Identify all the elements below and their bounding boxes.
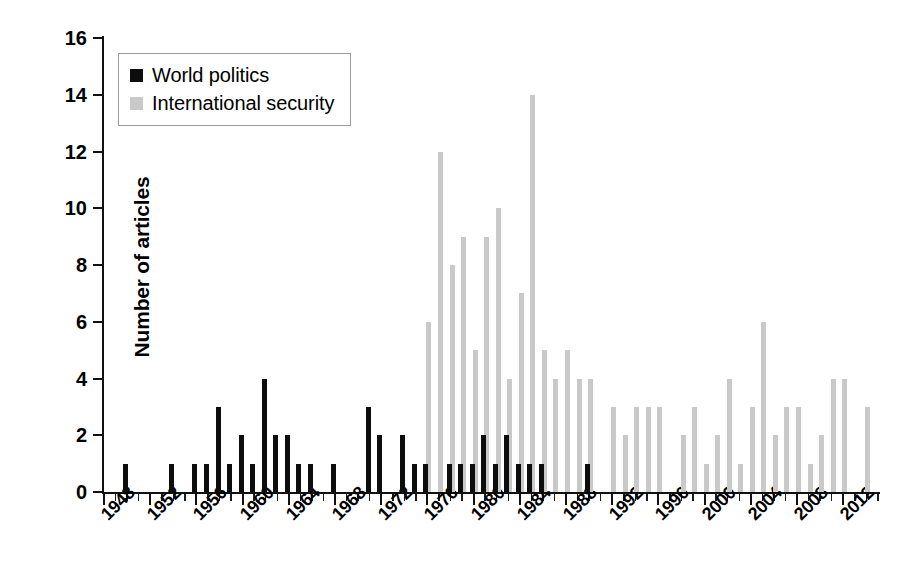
bar-international-security-1987	[553, 379, 558, 493]
bar-world-politics-1960	[239, 435, 244, 492]
bar-world-politics-1979	[458, 464, 463, 492]
bar-world-politics-1980	[470, 464, 475, 492]
bar-international-security-1989	[577, 379, 582, 493]
bar-world-politics-1966	[308, 464, 313, 492]
bar-international-security-2003	[738, 464, 743, 492]
bar-international-security-1992	[611, 407, 616, 492]
bar-world-politics-1985	[527, 464, 532, 492]
bar-international-security-1996	[657, 407, 662, 492]
bar-world-politics-1968	[331, 464, 336, 492]
bar-international-security-1984	[519, 293, 524, 492]
chart-legend: World politics International security	[118, 53, 351, 126]
bar-international-security-2007	[784, 407, 789, 492]
bar-world-politics-1984	[516, 464, 521, 492]
bar-international-security-1994	[634, 407, 639, 492]
bar-international-security-1979	[461, 237, 466, 492]
bar-world-politics-1964	[285, 435, 290, 492]
legend-label-world-politics: World politics	[152, 64, 269, 87]
bar-world-politics-1962	[262, 379, 267, 493]
bar-international-security-2014	[865, 407, 870, 492]
bar-world-politics-1982	[493, 464, 498, 492]
bar-international-security-1977	[438, 152, 443, 493]
bar-international-security-2012	[842, 379, 847, 493]
bar-international-security-1978	[450, 265, 455, 492]
bar-world-politics-1963	[273, 435, 278, 492]
bar-international-security-2001	[715, 435, 720, 492]
bar-international-security-1985	[530, 95, 535, 492]
bar-world-politics-1976	[423, 464, 428, 492]
bar-world-politics-1974	[400, 435, 405, 492]
bar-world-politics-1958	[216, 407, 221, 492]
bar-world-politics-1957	[204, 464, 209, 492]
bar-international-security-2006	[773, 435, 778, 492]
bar-world-politics-1956	[192, 464, 197, 492]
bar-international-security-2004	[750, 407, 755, 492]
legend-item-international-security: International security	[130, 89, 334, 117]
bar-international-security-2011	[831, 379, 836, 493]
legend-item-world-politics: World politics	[130, 61, 334, 89]
bar-world-politics-1975	[412, 464, 417, 492]
bar-world-politics-1990	[585, 464, 590, 492]
bar-international-security-1995	[646, 407, 651, 492]
bar-world-politics-1983	[504, 435, 509, 492]
bar-world-politics-1981	[481, 435, 486, 492]
bar-international-security-1998	[681, 435, 686, 492]
bar-international-security-2008	[796, 407, 801, 492]
bar-world-politics-1971	[366, 407, 371, 492]
bar-world-politics-1961	[250, 464, 255, 492]
bar-international-security-2000	[704, 464, 709, 492]
legend-swatch-world-politics	[130, 69, 143, 82]
bar-international-security-2009	[808, 464, 813, 492]
bar-world-politics-1965	[296, 464, 301, 492]
bar-international-security-2005	[761, 322, 766, 492]
bar-world-politics-1959	[227, 464, 232, 492]
bar-world-politics-1986	[539, 464, 544, 492]
bar-international-security-2010	[819, 435, 824, 492]
bar-international-security-1999	[692, 407, 697, 492]
bar-international-security-1982	[496, 208, 501, 492]
bar-world-politics-1978	[447, 464, 452, 492]
chart-figure: Number of articles 0246810121416 1948195…	[0, 0, 897, 573]
legend-swatch-international-security	[130, 97, 143, 110]
bar-international-security-1988	[565, 350, 570, 492]
bar-world-politics-1950	[123, 464, 128, 492]
bar-world-politics-1954	[169, 464, 174, 492]
bar-international-security-1993	[623, 435, 628, 492]
legend-label-international-security: International security	[152, 92, 334, 115]
bar-world-politics-1972	[377, 435, 382, 492]
bar-international-security-2002	[727, 379, 732, 493]
